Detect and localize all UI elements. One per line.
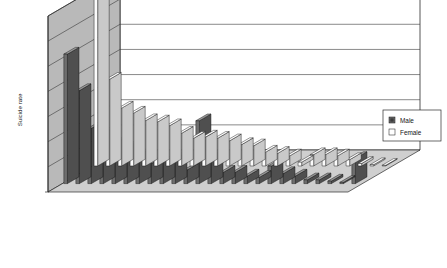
bar-side [98,0,110,166]
chart-legend: Male Female [383,110,441,141]
bar-front [94,0,98,166]
bar-front [298,162,302,166]
bar-side [110,73,122,166]
y-axis-title: Suicide rate [16,93,23,126]
bar-side [146,114,158,166]
bar-side [170,119,182,166]
bar-side [79,84,91,184]
bar-front [358,163,362,166]
chart-container: Sikkim — Female: 0.05Sikkim — Male: 2Miz… [0,0,447,268]
bar-side [67,47,79,183]
legend-label-female: Female [400,129,422,136]
bar-side [158,115,170,166]
bar-side [134,106,146,166]
legend-label-male: Male [400,117,414,124]
bar-front [64,54,68,183]
bar-side [122,101,134,166]
male-swatch-fill [390,118,393,121]
bar-front [304,180,308,184]
suicide-rate-3d-bar-chart: Sikkim — Female: 0.05Sikkim — Male: 2Miz… [0,0,447,268]
bar-front [316,180,320,184]
bar-male-0: West Bengal — Male: 10.3 [64,47,79,183]
legend-box [383,110,441,141]
bar-front [328,181,332,184]
bar-front [382,165,386,166]
bar-female-0: West Bengal — Female: 14 [94,0,109,166]
bar-front [370,165,374,166]
bar-front [340,182,344,183]
female-swatch [389,129,395,135]
